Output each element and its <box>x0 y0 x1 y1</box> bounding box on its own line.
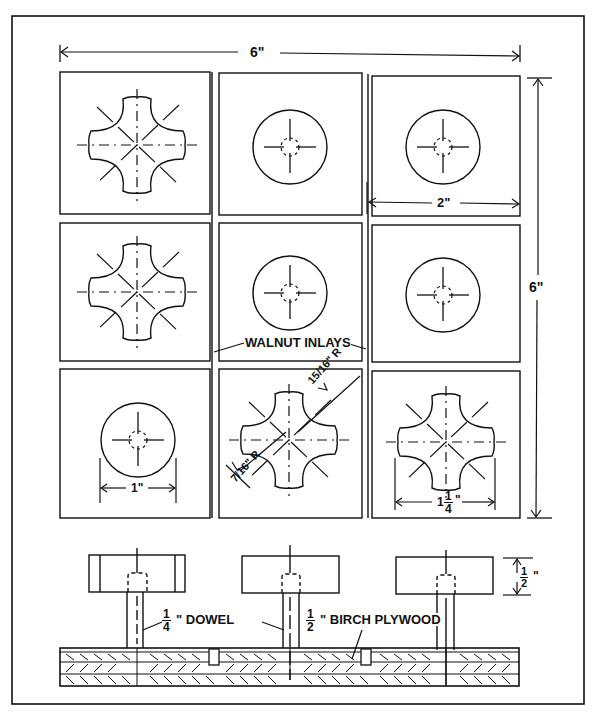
cross-piece <box>229 384 349 496</box>
plywood-label: " BIRCH PLYWOOD <box>320 613 441 626</box>
cross-piece <box>77 236 197 348</box>
overall-width-label: 6" <box>250 45 264 59</box>
round-piece <box>253 110 327 184</box>
overall-height-label: 6" <box>529 280 543 294</box>
cross-piece <box>77 89 197 201</box>
drawing-canvas <box>0 0 599 714</box>
outer-border <box>12 16 584 704</box>
thickness-fraction: 1 2 <box>520 566 528 589</box>
tile-width-label: 2" <box>437 196 450 209</box>
walnut-inlay-plug <box>209 649 219 665</box>
plywood-fraction: 1 2 <box>306 608 315 633</box>
plywood-hatching <box>66 654 510 684</box>
round-piece <box>406 110 480 184</box>
cross-width-unit: " <box>455 494 461 506</box>
thickness-unit: " <box>533 570 539 582</box>
round-piece <box>101 403 175 477</box>
thickness-dimension <box>503 558 533 595</box>
cross-piece <box>386 386 506 498</box>
dowel-label: " DOWEL <box>176 613 234 626</box>
section-piece-1 <box>89 548 185 648</box>
top-dimension-line <box>60 45 520 62</box>
walnut-inlay-plug <box>361 649 371 665</box>
round-piece <box>253 256 327 330</box>
round-piece <box>406 258 480 332</box>
dowel-leader <box>143 622 162 630</box>
round-diameter-label: 1" <box>131 482 143 494</box>
plywood-base <box>60 648 519 686</box>
cross-width-fraction: 1 4 <box>444 490 453 515</box>
dowel-fraction: 1 4 <box>162 608 171 633</box>
right-dimension-line <box>527 78 552 518</box>
cross-width-whole: 1 <box>437 496 444 508</box>
